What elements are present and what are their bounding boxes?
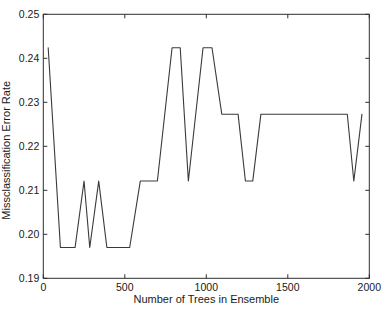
y-tick-label: 0.19 (19, 272, 40, 284)
x-axis-label: Number of Trees in Ensemble (134, 293, 280, 305)
y-tick-label: 0.24 (19, 52, 40, 64)
y-tick-label: 0.23 (19, 96, 40, 108)
chart-figure: 05001000150020000.190.200.210.220.230.24… (0, 0, 384, 313)
x-tick-label: 1500 (276, 281, 300, 293)
y-tick-label: 0.22 (19, 140, 40, 152)
plot-area (43, 14, 369, 278)
x-tick-label: 0 (40, 281, 46, 293)
series-line (48, 48, 362, 248)
x-tick-label: 500 (116, 281, 134, 293)
y-axis-label: Missclassification Error Rate (0, 81, 12, 220)
y-tick-label: 0.21 (19, 184, 40, 196)
y-tick-label: 0.20 (19, 228, 40, 240)
line-chart: 05001000150020000.190.200.210.220.230.24… (0, 0, 384, 313)
axis-ticks (43, 14, 369, 278)
axis-tick-labels: 05001000150020000.190.200.210.220.230.24… (19, 8, 381, 294)
x-tick-label: 2000 (358, 281, 382, 293)
y-tick-label: 0.25 (19, 8, 40, 20)
x-tick-label: 1000 (195, 281, 219, 293)
